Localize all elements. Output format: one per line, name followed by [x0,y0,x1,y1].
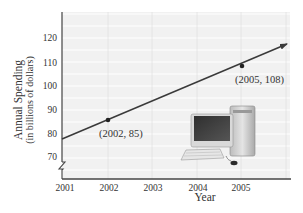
y-tick-labels: 70 80 90 100 110 120 [43,33,58,162]
y-axis-title-group: Annual Spending (in billions of dollars) [12,56,36,144]
x-tick-labels: 2001 2002 2003 2004 2005 [56,183,251,193]
chart: 70 80 90 100 110 120 2001 2002 2003 2004… [0,0,303,213]
y-tick-110: 110 [43,58,57,68]
point-label-2002: (2002, 85) [99,128,143,140]
x-tick-2005: 2005 [232,183,251,193]
point-label-2005: (2005, 108) [235,74,284,86]
x-tick-2002: 2002 [100,183,119,193]
y-tick-90: 90 [48,105,58,115]
y-axis-subtitle: (in billions of dollars) [24,56,36,144]
y-tick-70: 70 [48,152,58,162]
x-tick-2001: 2001 [56,183,75,193]
plot-area [62,12,290,179]
y-tick-100: 100 [43,81,58,91]
point-2002 [106,118,111,123]
point-2005 [240,64,245,69]
y-tick-80: 80 [48,129,58,139]
x-tick-2003: 2003 [144,183,163,193]
x-axis-title: Year [194,191,215,203]
y-tick-120: 120 [43,33,58,43]
